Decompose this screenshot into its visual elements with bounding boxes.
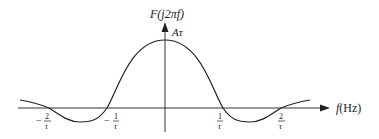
tick-label-minus-1-over-tau: − 1 τ bbox=[104, 112, 119, 131]
x-axis-arrow-icon bbox=[320, 105, 330, 112]
svg-text:τ: τ bbox=[114, 122, 118, 131]
tick-label-minus-2-over-tau: − 2 τ bbox=[36, 112, 51, 131]
y-axis-label: F(j2πf) bbox=[149, 7, 184, 21]
sinc-spectrum-chart: F(j2πf) Aτ f(Hz) − 2 τ − 1 τ 1 τ 2 τ bbox=[0, 0, 379, 139]
svg-text:1: 1 bbox=[114, 112, 118, 121]
x-axis-label: f(Hz) bbox=[336, 101, 361, 115]
tick-label-1-over-tau: 1 τ bbox=[217, 112, 223, 131]
svg-text:τ: τ bbox=[279, 122, 283, 131]
svg-text:2: 2 bbox=[45, 112, 49, 121]
peak-label: Aτ bbox=[171, 26, 184, 38]
y-axis-arrow-icon bbox=[162, 22, 169, 32]
svg-text:2: 2 bbox=[279, 112, 283, 121]
svg-text:−: − bbox=[104, 115, 110, 126]
svg-text:1: 1 bbox=[218, 112, 222, 121]
svg-text:−: − bbox=[36, 115, 42, 126]
svg-text:τ: τ bbox=[218, 122, 222, 131]
tick-label-2-over-tau: 2 τ bbox=[278, 112, 285, 131]
svg-text:τ: τ bbox=[45, 122, 49, 131]
